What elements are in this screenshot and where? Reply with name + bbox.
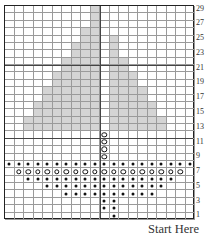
- chart-cell: [81, 161, 91, 168]
- chart-cell: [186, 36, 196, 43]
- chart-cell: [157, 183, 167, 190]
- chart-cell: [186, 176, 196, 183]
- chart-cell: [157, 95, 167, 102]
- dot-stitch-icon: [46, 177, 49, 180]
- chart-cell: [119, 36, 129, 43]
- chart-cell: [43, 65, 53, 72]
- chart-cell: [53, 168, 63, 175]
- chart-cell: [34, 205, 44, 212]
- chart-cell: [34, 183, 44, 190]
- dot-stitch-icon: [141, 192, 144, 195]
- chart-cell: [53, 6, 63, 13]
- chart-cell: [81, 205, 91, 212]
- chart-cell: [176, 109, 186, 116]
- chart-cell: [72, 117, 82, 124]
- chart-cell: [15, 36, 25, 43]
- chart-cell: [53, 139, 63, 146]
- chart-cell: [5, 28, 15, 35]
- chart-cell: [100, 43, 110, 50]
- chart-cell: [100, 146, 110, 153]
- chart-cell: [119, 205, 129, 212]
- dot-stitch-icon: [74, 177, 77, 180]
- chart-cell: [5, 176, 15, 183]
- chart-cell: [138, 109, 148, 116]
- chart-cell: [62, 50, 72, 57]
- chart-cell: [34, 213, 44, 220]
- chart-cell: [110, 36, 120, 43]
- chart-cell: [53, 65, 63, 72]
- chart-cell: [110, 109, 120, 116]
- chart-cell: [167, 65, 177, 72]
- chart-cell: [129, 183, 139, 190]
- chart-cell: [167, 6, 177, 13]
- dot-stitch-icon: [103, 200, 106, 203]
- chart-cell: [15, 102, 25, 109]
- chart-cell: [148, 117, 158, 124]
- chart-cell: [62, 190, 72, 197]
- chart-cell: [157, 72, 167, 79]
- chart-cell: [34, 28, 44, 35]
- row-number-label: 19: [196, 78, 204, 86]
- dot-stitch-icon: [179, 163, 182, 166]
- chart-cell: [110, 168, 120, 175]
- chart-cell: [176, 21, 186, 28]
- ring-stitch-icon: [102, 147, 107, 152]
- chart-cell: [81, 102, 91, 109]
- chart-cell: [148, 87, 158, 94]
- ring-stitch-icon: [16, 169, 21, 174]
- chart-cell: [100, 161, 110, 168]
- chart-cell: [81, 124, 91, 131]
- dot-stitch-icon: [150, 192, 153, 195]
- row-number-label: 17: [196, 93, 204, 101]
- chart-cell: [157, 50, 167, 57]
- chart-cell: [129, 205, 139, 212]
- ring-stitch-icon: [111, 169, 116, 174]
- row-number-label: 7: [196, 167, 200, 175]
- chart-cell: [176, 183, 186, 190]
- chart-cell: [72, 95, 82, 102]
- chart-cell: [176, 154, 186, 161]
- chart-cell: [62, 36, 72, 43]
- chart-cell: [72, 6, 82, 13]
- chart-cell: [176, 161, 186, 168]
- chart-cell: [176, 176, 186, 183]
- chart-cell: [24, 28, 34, 35]
- chart-cell: [157, 154, 167, 161]
- chart-cell: [24, 36, 34, 43]
- row-number-label: 5: [196, 182, 200, 190]
- chart-cell: [119, 43, 129, 50]
- chart-cell: [43, 205, 53, 212]
- chart-cell: [24, 95, 34, 102]
- chart-cell: [138, 198, 148, 205]
- chart-cell: [119, 95, 129, 102]
- chart-cell: [53, 102, 63, 109]
- chart-cell: [5, 183, 15, 190]
- chart-cell: [100, 36, 110, 43]
- start-here-caption: Start Here: [148, 222, 199, 235]
- dot-stitch-icon: [160, 177, 163, 180]
- chart-cell: [15, 95, 25, 102]
- chart-cell: [186, 154, 196, 161]
- chart-cell: [34, 36, 44, 43]
- center-guide-line: [100, 6, 101, 218]
- chart-cell: [157, 124, 167, 131]
- dot-stitch-icon: [84, 185, 87, 188]
- chart-cell: [62, 213, 72, 220]
- chart-cell: [176, 87, 186, 94]
- dot-stitch-icon: [112, 163, 115, 166]
- chart-cell: [167, 168, 177, 175]
- chart-cell: [72, 190, 82, 197]
- chart-cell: [24, 65, 34, 72]
- chart-cell: [53, 146, 63, 153]
- chart-cell: [129, 139, 139, 146]
- chart-cell: [167, 161, 177, 168]
- chart-cell: [148, 80, 158, 87]
- chart-cell: [138, 190, 148, 197]
- chart-cell: [43, 43, 53, 50]
- chart-cell: [176, 102, 186, 109]
- chart-cell: [167, 205, 177, 212]
- chart-cell: [62, 198, 72, 205]
- chart-cell: [34, 154, 44, 161]
- chart-cell: [148, 36, 158, 43]
- chart-cell: [43, 36, 53, 43]
